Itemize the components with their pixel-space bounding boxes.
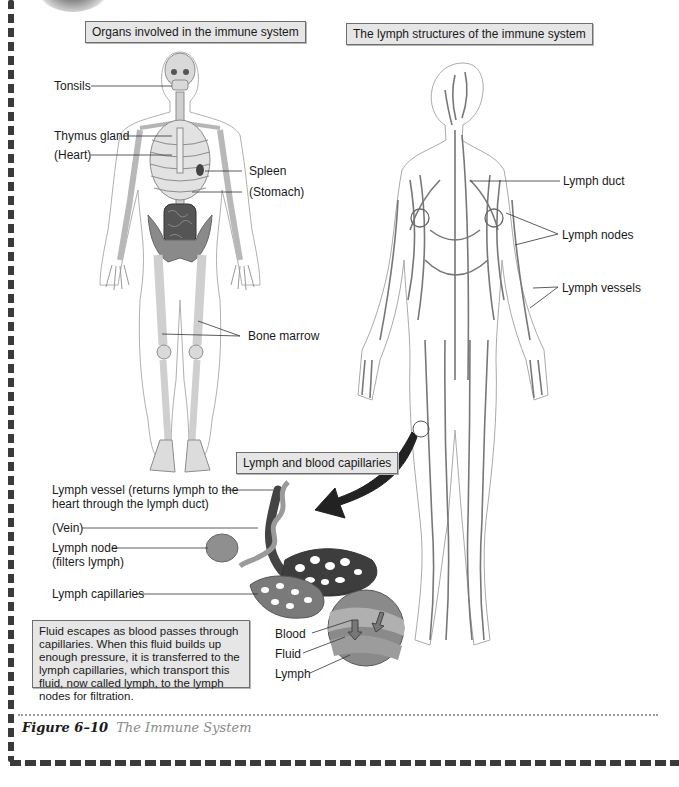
- fluid-explanation-note: Fluid escapes as blood passes through ca…: [32, 620, 250, 688]
- label-lymph-duct: Lymph duct: [563, 174, 625, 188]
- caption-divider: [18, 714, 658, 716]
- label-lymph-capillaries: Lymph capillaries: [52, 587, 144, 601]
- label-tonsils: Tonsils: [54, 79, 91, 93]
- figure-number: Figure 6–10: [22, 720, 108, 735]
- skeleton-figure: [100, 52, 260, 472]
- label-lymph-node-line1: Lymph node: [52, 541, 124, 555]
- capillaries-inset-title: Lymph and blood capillaries: [236, 452, 398, 474]
- lymph-structures-panel-title: The lymph structures of the immune syste…: [346, 23, 593, 45]
- organs-panel-title: Organs involved in the immune system: [85, 21, 306, 43]
- label-lymph-nodes: Lymph nodes: [562, 228, 634, 242]
- label-spleen: Spleen: [249, 164, 286, 178]
- lymphatic-figure: [358, 63, 548, 645]
- label-lymph-node: Lymph node (filters lymph): [52, 541, 124, 569]
- label-bone-marrow: Bone marrow: [248, 329, 319, 343]
- label-vein: (Vein): [52, 521, 83, 535]
- figure-title: The Immune System: [116, 720, 251, 735]
- label-fluid: Fluid: [275, 647, 301, 661]
- label-lymph: Lymph: [275, 667, 311, 681]
- figure-caption: Figure 6–10 The Immune System: [22, 720, 252, 735]
- label-lymph-vessels: Lymph vessels: [562, 281, 641, 295]
- label-lymph-vessel-line2: heart through the lymph duct): [52, 497, 238, 511]
- label-lymph-vessel: Lymph vessel (returns lymph to the heart…: [52, 483, 238, 511]
- label-thymus-gland: Thymus gland: [54, 129, 129, 143]
- label-lymph-node-line2: (filters lymph): [52, 555, 124, 569]
- zoom-arrow: [315, 432, 417, 518]
- label-stomach: (Stomach): [249, 185, 304, 199]
- page-edge-bottom-dashes: [10, 760, 679, 766]
- label-heart: (Heart): [54, 148, 91, 162]
- label-lymph-vessel-line1: Lymph vessel (returns lymph to the: [52, 483, 238, 497]
- label-blood: Blood: [275, 627, 306, 641]
